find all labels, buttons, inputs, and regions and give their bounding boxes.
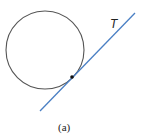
tangent-diagram [0, 0, 141, 136]
tangent-line [40, 13, 135, 111]
figure-caption: (a) [58, 121, 70, 133]
tangent-point [70, 75, 74, 79]
tangent-label: T [110, 17, 117, 31]
